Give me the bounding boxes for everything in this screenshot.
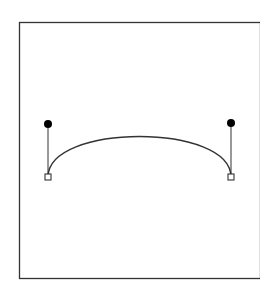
right-anchor-point-square[interactable]: [228, 174, 234, 180]
diagram-frame: [20, 23, 261, 279]
left-control-point-dot[interactable]: [44, 120, 52, 128]
bezier-diagram: [0, 0, 260, 283]
right-control-point-dot[interactable]: [227, 119, 235, 127]
bezier-curve: [48, 137, 231, 178]
diagram-canvas: [0, 0, 260, 283]
left-anchor-point-square[interactable]: [45, 174, 51, 180]
